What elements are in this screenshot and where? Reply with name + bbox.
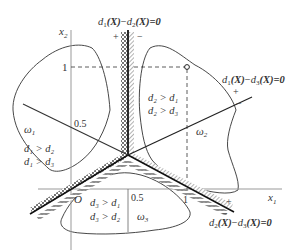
omega1-condition-1: d₁ > d₂ — [24, 143, 54, 154]
x2-axis-label: x2 — [58, 25, 68, 40]
point-1-1-marker — [185, 65, 190, 70]
omega2-condition-1: d₂ > d₁ — [148, 92, 178, 103]
d12-diag-hatch — [129, 32, 134, 154]
omega3-condition-1: d₃ > d₁ — [90, 197, 120, 208]
x1-axis-label: x1 — [267, 191, 276, 206]
omega2-condition-2: d₂ > d₃ — [148, 105, 178, 116]
y-tick-0-5: 0.5 — [74, 118, 87, 129]
d12-plus-sign: + — [113, 31, 119, 42]
decision-boundary-diagram: x2 x1 O 1 0.5 0.5 1 d1(X)−d2(X)=0 + − d1… — [0, 0, 302, 251]
omega2-label: ω2 — [196, 125, 208, 139]
d12-boundary-label: d1(X)−d2(X)=0 — [98, 16, 161, 29]
d23-minus-sign: − — [222, 208, 228, 219]
d13-plus-sign: + — [233, 86, 239, 97]
d23-boundary-line — [128, 155, 234, 212]
d13-minus-sign: − — [236, 98, 242, 109]
d13-boundary-label: d1(X)−d3(X)=0 — [222, 74, 285, 87]
d13-boundary-line — [128, 97, 252, 155]
omega3-condition-2: d₃ > d₂ — [90, 211, 120, 222]
y-tick-1: 1 — [62, 61, 68, 73]
omega1-condition-2: d₁ > d₃ — [24, 156, 54, 167]
d23-plus-sign: + — [226, 196, 232, 207]
omega1-label: ω1 — [24, 123, 35, 137]
d12-minus-sign: − — [137, 31, 143, 42]
origin-label: O — [74, 193, 82, 205]
omega3-label: ω3 — [137, 210, 149, 224]
d23-diag-hatch — [130, 152, 233, 209]
d12-dot-hatch — [121, 32, 127, 154]
x-tick-1: 1 — [183, 194, 188, 205]
d23-boundary-label: d2(X)−d3(X)=0 — [209, 217, 272, 230]
x-tick-0-5: 0.5 — [131, 192, 144, 203]
